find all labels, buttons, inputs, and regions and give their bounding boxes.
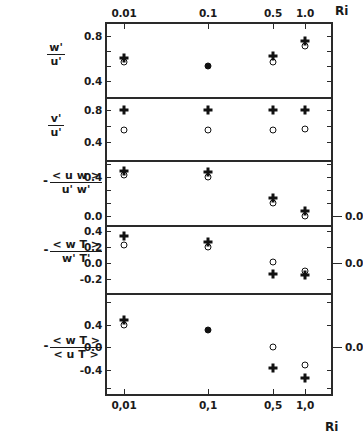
panel-4-rtick-3	[327, 279, 333, 280]
data-point	[301, 106, 310, 115]
panel-3-denominator: u' w'	[50, 183, 102, 196]
panel-5-right-outer-tick	[333, 347, 342, 348]
panel-5-rtick-1	[327, 370, 333, 371]
data-point	[269, 194, 278, 203]
data-point	[120, 232, 129, 241]
panel-4-ytick-0	[105, 231, 111, 232]
data-point	[301, 37, 310, 46]
panel-3-rtick-c	[327, 203, 333, 204]
top-tick-3	[305, 22, 306, 29]
panel-3-ytick-label-1: 0.0	[56, 211, 102, 221]
panel-3-ytick-0	[105, 177, 111, 178]
data-point	[120, 106, 129, 115]
data-point	[121, 127, 128, 134]
panel-5-minus: -	[43, 340, 50, 353]
panel-4-ytick-label-3: -0.2	[50, 274, 102, 284]
data-point	[301, 207, 310, 216]
data-point	[121, 242, 128, 249]
panel-5-rtick-0	[327, 325, 333, 326]
bottom-tick-label-3: 1,0	[287, 400, 323, 410]
data-point	[120, 54, 129, 63]
panel-4-ytick-label-2: 0.0	[56, 258, 102, 268]
data-point	[204, 168, 213, 177]
panel-2-rtick-1	[327, 142, 333, 143]
panel-5-ytick-1	[105, 370, 111, 371]
top-tick-0	[124, 22, 125, 29]
panel-2-ytick-0	[105, 110, 111, 111]
panel-5-ytick-label-2: -0.4	[50, 365, 102, 375]
top-tick-label-0: 0.01	[104, 8, 144, 18]
panel-separator-2	[105, 160, 333, 162]
data-point	[205, 63, 212, 70]
panel-1-rtick-a	[327, 51, 333, 52]
panel-4-minus: -	[43, 244, 50, 257]
panel-3-rtick-b	[327, 190, 333, 191]
bottom-tick-1	[208, 389, 209, 396]
panel-1-rtick-b	[327, 66, 333, 67]
panel-separator-1	[105, 97, 333, 99]
plot-frame	[105, 22, 333, 396]
panel-5-ytick-minor-b	[105, 347, 111, 348]
panel-4-right-outer-tick	[333, 263, 342, 264]
panel-3-ytick-minor-a	[105, 164, 111, 165]
panel-3-rtick-0	[327, 177, 333, 178]
bottom-tick-label-1: 0,1	[190, 400, 226, 410]
data-point	[120, 167, 129, 176]
bottom-tick-label-0: 0,01	[104, 400, 144, 410]
panel-1-rtick-1	[327, 81, 333, 82]
bottom-tick-3	[305, 389, 306, 396]
panel-5-ytick-label-0: 0.4	[56, 320, 102, 330]
panel-1-numerator: w'	[47, 42, 65, 55]
panel-4-ytick-label-1: 0.2	[56, 242, 102, 252]
panel-1-ytick-0	[105, 36, 111, 37]
top-tick-label-1: 0.1	[190, 8, 226, 18]
panel-4-right-label: 0.0	[345, 258, 363, 268]
data-point	[120, 316, 129, 325]
panel-separator-3	[105, 225, 333, 227]
panel-4-ytick-2	[105, 263, 111, 264]
panel-1-ytick-minor-b	[105, 66, 111, 67]
panel-5-ytick-0	[105, 325, 111, 326]
panel-separator-4	[105, 293, 333, 295]
data-point	[270, 344, 277, 351]
top-axis-name: Ri	[335, 4, 348, 18]
data-point	[269, 364, 278, 373]
panel-label-w-over-u: w' u'	[34, 42, 78, 67]
panel-4-ytick-1	[105, 247, 111, 248]
bottom-axis-name: Ri	[325, 420, 338, 434]
data-point	[302, 362, 309, 369]
data-point	[301, 271, 310, 280]
panel-1-ytick-1	[105, 81, 111, 82]
panel-3-ytick-minor-c	[105, 203, 111, 204]
data-point	[269, 52, 278, 61]
top-tick-label-3: 1.0	[287, 8, 323, 18]
data-point	[204, 106, 213, 115]
panel-5-rtick-a	[327, 302, 333, 303]
data-point	[301, 374, 310, 383]
bottom-tick-2	[273, 389, 274, 396]
panel-3-rtick-a	[327, 164, 333, 165]
data-point	[205, 127, 212, 134]
panel-4-ytick-label-0: 0.4	[56, 226, 102, 236]
panel-5-ytick-2	[105, 388, 111, 389]
panel-label-v-over-u: v' u'	[34, 113, 78, 138]
panel-2-ytick-label-0: 0.8	[56, 105, 102, 115]
panel-1-ytick-label-0: 0.8	[56, 31, 102, 41]
data-point	[302, 126, 309, 133]
panel-1-rtick-0	[327, 36, 333, 37]
panel-1-denominator: u'	[47, 55, 65, 68]
data-point	[269, 270, 278, 279]
panel-5-ytick-label-1: 0.0	[56, 342, 102, 352]
panel-5-rtick-2	[327, 388, 333, 389]
panel-1-ytick-label-1: 0.4	[56, 76, 102, 86]
panel-3-right-outer-tick	[333, 216, 342, 217]
panel-2-ytick-1	[105, 142, 111, 143]
top-tick-2	[273, 22, 274, 29]
data-point	[205, 327, 212, 334]
bottom-tick-label-2: 0,5	[255, 400, 291, 410]
panel-3-right-label: 0.0	[345, 211, 363, 221]
data-point	[269, 106, 278, 115]
panel-2-rtick-a	[327, 126, 333, 127]
panel-2-rtick-0	[327, 110, 333, 111]
